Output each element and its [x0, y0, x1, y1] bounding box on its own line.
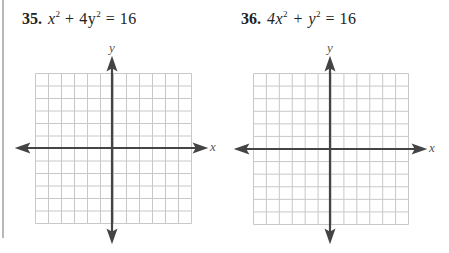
x-axis-label: x — [429, 140, 435, 156]
y-axis-label: y — [327, 40, 333, 56]
coordinate-grid-36 — [0, 0, 449, 253]
